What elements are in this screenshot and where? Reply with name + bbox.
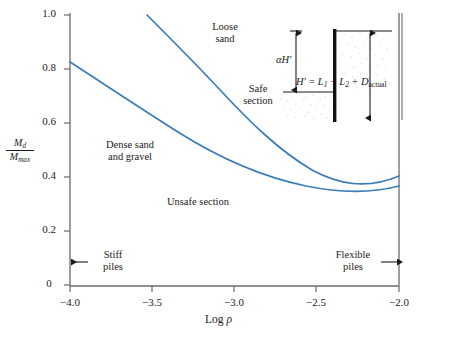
y-axis-numerator: Md: [6, 137, 34, 150]
annotation-unsafe-section: Unsafe section: [150, 196, 246, 208]
x-axis-title-text: Log: [205, 313, 224, 325]
annotation-loose-sand: Loosesand: [198, 21, 252, 45]
annotation-dense-sand-gravel: Dense sandand gravel: [86, 139, 174, 163]
y-tick-label-1.0: 1.0: [36, 7, 62, 19]
x-tick-label--3.0: −3.0: [216, 296, 252, 308]
eq-plus-1: +: [327, 76, 339, 87]
annotation-flexible-piles: Flexiblepiles: [326, 249, 380, 273]
x-ticks-group: [70, 286, 399, 292]
y-tick-label-0.4: 0.4: [36, 169, 62, 181]
x-tick-label--4.0: −4.0: [52, 296, 88, 308]
y-ticks-group: [64, 15, 70, 285]
x-axis-title: Logρ: [205, 313, 232, 326]
y-axis-denominator: Mmax: [6, 151, 34, 164]
y-tick-label-0.6: 0.6: [36, 115, 62, 127]
y-axis-title: Md Mmax: [6, 137, 34, 163]
eq-equals: =: [306, 76, 318, 87]
x-tick-label--2.0: −2.0: [381, 296, 417, 308]
soil-stipple-left: [281, 92, 330, 118]
inset-schematic-group: [281, 13, 403, 122]
inset-safe-section-label: Safesection: [234, 83, 282, 107]
eq-D-sub: actual: [369, 80, 387, 89]
inset-alpha-h-label: αH′: [276, 54, 291, 66]
chart-canvas: [0, 0, 458, 337]
eq-plus-2: +: [349, 76, 361, 87]
eq-D: D: [361, 76, 369, 87]
x-tick-label--2.5: −2.5: [298, 296, 334, 308]
eq-H: H: [296, 76, 304, 87]
y-tick-label-0: 0: [36, 277, 62, 289]
y-tick-label-0.8: 0.8: [36, 61, 62, 73]
x-tick-label--3.5: −3.5: [134, 296, 170, 308]
annotation-stiff-piles: Stiffpiles: [92, 249, 134, 273]
y-tick-label-0.2: 0.2: [36, 223, 62, 235]
inset-equation: H′=L1+L2+Dactual: [296, 76, 387, 89]
x-axis-title-symbol: ρ: [224, 313, 233, 325]
figure-container: 1.0 0.8 0.6 0.4 0.2 0 −4.0 −3.5 −3.0 −2.…: [0, 0, 458, 337]
